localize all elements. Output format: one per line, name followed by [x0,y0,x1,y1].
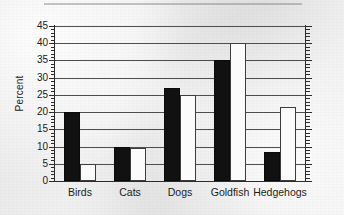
y-axis-minor-tick-right [306,171,310,172]
y-axis-minor-tick-right [306,122,310,123]
y-axis-minor-tick-right [306,143,310,144]
y-axis-minor-tick-right [306,116,310,117]
x-axis-baseline [55,181,305,182]
y-axis-minor-tick-right [306,136,310,137]
y-axis-minor-tick-right [306,167,310,168]
bar-hedgehogs-open [280,107,296,181]
y-axis-minor-tick-right [306,88,310,89]
bars-group [55,26,305,181]
chart-screenshot: Percent 051015202530354045 BirdsCatsDogs… [0,0,344,215]
bar-goldfish-filled [214,60,230,181]
y-axis-minor-tick-right [306,98,310,99]
y-axis-minor-tick-right [306,54,310,55]
y-axis-major-tick-right [306,60,312,61]
y-axis-minor-tick-right [306,126,310,127]
y-axis-minor-tick-right [306,178,310,179]
y-axis-major-tick-right [306,181,312,182]
y-axis-tick-label: 30 [18,73,48,83]
y-axis-minor-tick-right [306,91,310,92]
y-axis-minor-tick-right [306,102,310,103]
y-axis-minor-tick-right [306,29,310,30]
y-axis-major-tick-right [306,78,312,79]
y-axis-minor-tick-right [306,81,310,82]
y-axis-major-tick-right [306,147,312,148]
y-axis-tick-label: 25 [18,90,48,100]
y-axis-minor-tick-right [306,50,310,51]
y-axis-minor-tick-right [306,160,310,161]
y-axis-minor-tick-right [306,119,310,120]
y-axis-minor-tick-right [306,109,310,110]
bar-goldfish-open [230,43,246,181]
y-axis-tick-label: 15 [18,124,48,134]
bar-cats-open [130,148,146,181]
y-axis-minor-tick-right [306,153,310,154]
y-axis-tick-label: 20 [18,107,48,117]
y-axis-minor-tick-right [306,33,310,34]
y-axis-tick-label: 40 [18,38,48,48]
y-axis-tick-label: 10 [18,142,48,152]
y-axis-minor-tick-right [306,105,310,106]
bar-birds-open [80,164,96,181]
y-axis-major-tick-right [306,129,312,130]
y-axis-minor-tick-right [306,40,310,41]
y-axis-minor-tick-right [306,71,310,72]
y-axis-minor-tick-right [306,150,310,151]
bar-cats-filled [114,147,130,181]
y-axis-tick-label: 0 [18,176,48,186]
y-axis-minor-tick-right [306,157,310,158]
x-axis-label-hedgehogs: Hedgehogs [249,186,311,198]
bar-hedgehogs-filled [264,152,280,181]
y-axis-minor-tick-right [306,67,310,68]
y-axis-major-tick-right [306,43,312,44]
y-axis-minor-tick-right [306,174,310,175]
y-axis-minor-tick-right [306,74,310,75]
y-axis-minor-tick-right [306,64,310,65]
y-axis-major-tick-right [306,95,312,96]
y-axis-minor-tick-right [306,133,310,134]
y-axis-tick-label: 45 [18,21,48,31]
y-axis-major-tick-right [306,164,312,165]
bar-birds-filled [64,112,80,181]
y-axis-minor-tick-right [306,36,310,37]
top-scan-artifact-line [44,3,302,5]
y-axis-tick-label: 5 [18,159,48,169]
y-axis-minor-tick-right [306,140,310,141]
y-axis-minor-tick-right [306,57,310,58]
y-axis-minor-tick-right [306,85,310,86]
bar-dogs-filled [164,88,180,181]
y-axis-major-tick-right [306,26,312,27]
y-axis-right-spine [305,25,306,182]
bar-dogs-open [180,95,196,181]
y-axis-tick-label: 35 [18,55,48,65]
y-axis-major-tick-right [306,112,312,113]
y-axis-minor-tick-right [306,47,310,48]
